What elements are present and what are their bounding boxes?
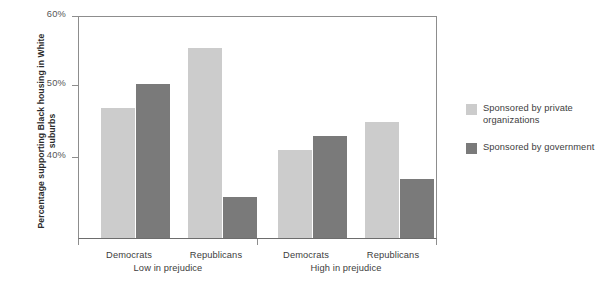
bar-low-republicans-private (188, 48, 222, 238)
x-label-low-democrats: Democrats (95, 250, 163, 260)
x-group-label-high-prejudice: High in prejudice (300, 263, 392, 273)
bar-chart-figure: Percentage supporting Black housing in W… (0, 0, 614, 284)
bar-high-democrats-private (278, 150, 312, 238)
bar-high-republicans-private (365, 122, 399, 238)
bar-high-republicans-government (400, 179, 434, 238)
y-tick-60: 60% (0, 16, 78, 17)
y-tick-label-60: 60% (47, 9, 66, 19)
x-label-high-democrats: Democrats (272, 250, 340, 260)
legend-item-private: Sponsored by private organizations (466, 103, 614, 126)
legend-label-private: Sponsored by private organizations (483, 103, 614, 126)
bar-low-republicans-government (223, 197, 257, 238)
legend-item-government: Sponsored by government (466, 142, 614, 154)
x-tick-right-edge (436, 239, 437, 245)
y-axis-title: Percentage supporting Black housing in W… (36, 16, 58, 246)
legend-label-government: Sponsored by government (483, 142, 614, 154)
x-label-high-republicans: Republicans (357, 250, 429, 260)
plot-area (78, 16, 437, 239)
bar-low-democrats-government (136, 84, 170, 238)
legend-swatch-private (466, 104, 477, 115)
x-tick-group-divider (257, 239, 258, 245)
y-tick-label-50: 50% (47, 78, 66, 88)
x-label-low-republicans: Republicans (180, 250, 252, 260)
y-tick-40: 40% (0, 157, 78, 158)
bar-high-democrats-government (313, 136, 347, 238)
y-tick-label-40: 40% (47, 150, 66, 160)
legend-swatch-government (466, 143, 477, 154)
bar-low-democrats-private (101, 108, 135, 238)
legend: Sponsored by private organizations Spons… (466, 103, 614, 170)
y-tick-50: 50% (0, 85, 78, 86)
x-tick-left-edge (78, 239, 79, 245)
x-group-label-low-prejudice: Low in prejudice (122, 263, 214, 273)
